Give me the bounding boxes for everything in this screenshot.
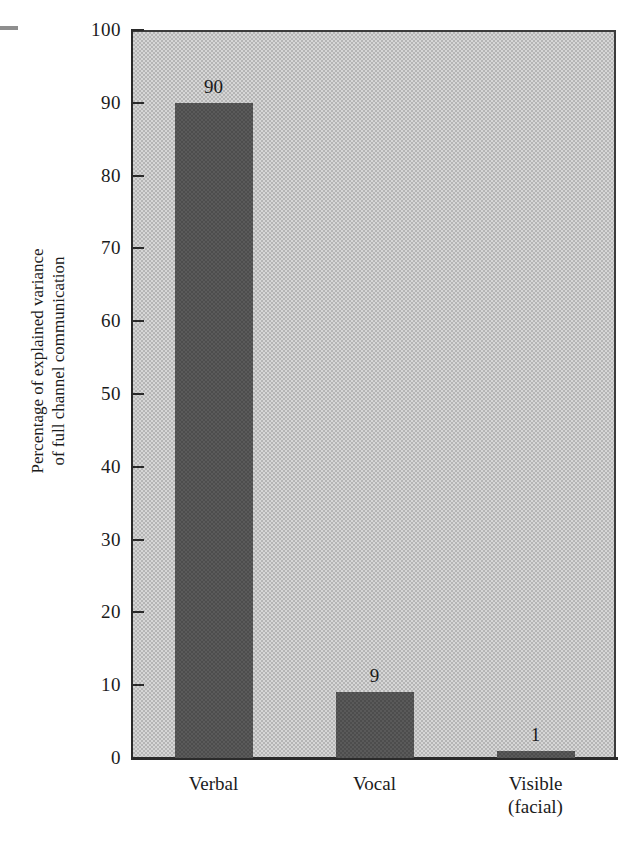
- category-label: Verbal: [134, 772, 294, 795]
- y-axis-tick: [133, 611, 144, 613]
- category-label-line-2: (facial): [456, 795, 616, 818]
- y-axis-tick-label-wrap: 0: [0, 748, 121, 767]
- y-axis-tick-label: 90: [11, 93, 121, 112]
- y-axis-tick-label-wrap: 100: [0, 20, 121, 39]
- y-axis-tick: [133, 684, 144, 686]
- y-axis-tick: [133, 247, 144, 249]
- category-label-line-1: Visible: [456, 772, 616, 795]
- y-axis-tick-label: 10: [11, 675, 121, 694]
- y-axis-tick: [133, 393, 144, 395]
- category-label-line-1: Verbal: [134, 772, 294, 795]
- y-axis-tick-label: 20: [11, 602, 121, 621]
- y-axis-title-line-1: Percentage of explained variance: [27, 241, 48, 481]
- y-axis-tick-label-wrap: 90: [0, 93, 121, 112]
- y-axis-tick-label: 80: [11, 166, 121, 185]
- y-axis-tick-label: 0: [11, 748, 121, 767]
- bar-chart-figure: 0102030405060708090100 9091 VerbalVocalV…: [0, 0, 640, 845]
- bar: [497, 751, 575, 758]
- category-label: Vocal: [295, 772, 455, 795]
- y-axis-title: Percentage of explained variance of full…: [27, 241, 69, 481]
- y-axis-tick-label-wrap: 80: [0, 166, 121, 185]
- y-axis-tick: [133, 29, 144, 31]
- y-axis-tick-label-wrap: 20: [0, 602, 121, 621]
- y-axis-tick-label-wrap: 10: [0, 675, 121, 694]
- y-axis-tick-label: 100: [11, 20, 121, 39]
- category-label-line-1: Vocal: [295, 772, 455, 795]
- y-axis-tick: [133, 102, 144, 104]
- y-axis-tick-label: 30: [11, 530, 121, 549]
- bar: [175, 103, 253, 758]
- y-axis-title-line-2: of full channel communication: [48, 241, 69, 481]
- bar-value-label: 1: [476, 725, 596, 744]
- y-axis-tick: [133, 539, 144, 541]
- bar: [336, 692, 414, 758]
- y-axis-tick: [133, 320, 144, 322]
- bar-value-label: 9: [315, 666, 435, 685]
- y-axis-tick-label-wrap: 30: [0, 530, 121, 549]
- y-axis-tick: [133, 466, 144, 468]
- y-axis-tick: [133, 175, 144, 177]
- category-label: Visible(facial): [456, 772, 616, 818]
- bar-value-label: 90: [154, 77, 274, 96]
